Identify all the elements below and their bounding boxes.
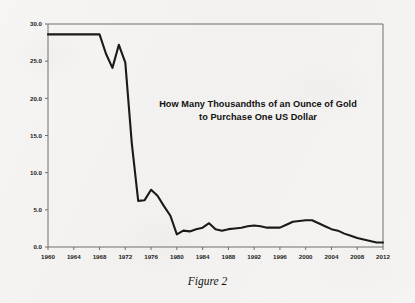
x-tick-label: 2012 (376, 253, 390, 260)
y-tick-label: 0.0 (33, 243, 42, 250)
x-tick-label: 1988 (222, 253, 236, 260)
x-tick-label: 2008 (350, 253, 364, 260)
figure-page: 0.05.010.015.020.025.030.0 1960196419681… (0, 0, 415, 303)
x-tick-label: 1980 (170, 253, 184, 260)
chart-title-line-2: to Purchase One US Dollar (199, 112, 317, 122)
y-tick-label: 5.0 (33, 206, 42, 213)
y-tick-label: 15.0 (30, 132, 43, 139)
x-tick-label: 2000 (299, 253, 313, 260)
y-axis: 0.05.010.015.020.025.030.0 (30, 20, 48, 250)
x-tick-label: 1996 (273, 253, 287, 260)
chart-title: How Many Thousandths of an Ounce of Gold… (138, 98, 378, 124)
x-tick-label: 1972 (118, 253, 132, 260)
x-tick-label: 1964 (67, 253, 81, 260)
y-tick-label: 10.0 (30, 169, 43, 176)
y-tick-label: 30.0 (30, 20, 43, 27)
y-axis-tick-labels: 0.05.010.015.020.025.030.0 (30, 20, 43, 250)
x-tick-label: 1960 (41, 253, 55, 260)
x-tick-label: 1976 (144, 253, 158, 260)
chart-svg: 0.05.010.015.020.025.030.0 1960196419681… (0, 0, 415, 303)
x-tick-label: 1992 (247, 253, 261, 260)
x-tick-label: 2004 (325, 253, 339, 260)
x-tick-label: 1984 (196, 253, 210, 260)
gold-per-dollar-series (48, 34, 383, 242)
y-tick-label: 25.0 (30, 57, 43, 64)
line-chart: 0.05.010.015.020.025.030.0 1960196419681… (0, 0, 415, 303)
figure-caption: Figure 2 (0, 275, 415, 287)
x-tick-label: 1968 (93, 253, 107, 260)
chart-title-line-1: How Many Thousandths of an Ounce of Gold (159, 99, 357, 109)
x-axis: 1960196419681972197619801984198819921996… (41, 24, 390, 260)
x-axis-tick-labels: 1960196419681972197619801984198819921996… (41, 253, 390, 260)
y-tick-label: 20.0 (30, 95, 43, 102)
